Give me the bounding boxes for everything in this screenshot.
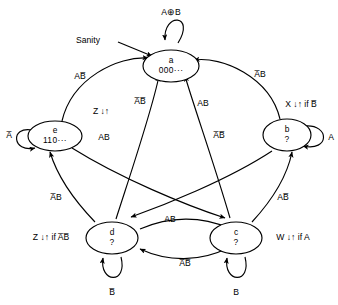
output-label-e: Z ↓↑ [93, 107, 109, 116]
state-code-a: 000··· [159, 66, 184, 76]
edge-label-d-to-e: A̅B [50, 193, 61, 202]
state-label-d: d ? [109, 228, 114, 247]
self-loop-d [103, 257, 122, 277]
edge-label-b-to-d: A̅B̅ [213, 131, 224, 140]
state-code-e: 110··· [43, 136, 67, 146]
state-code-c: ? [233, 238, 238, 248]
edge-label-d-to-a: A̅B̅ [134, 97, 145, 106]
edge-b-to-a [194, 60, 280, 119]
state-label-b: b ? [284, 125, 289, 144]
state-transition-diagram: a 000··· e 110··· b ? d ? c ? A⊕B A̅ A B… [0, 0, 338, 305]
entry-label-sanity: Sanity [76, 36, 100, 45]
diagram-canvas [0, 0, 338, 305]
self-loop-label-a: A⊕B [161, 8, 180, 17]
edge-label-c-to-a: AB [197, 99, 208, 108]
state-label-e: e 110··· [43, 126, 67, 145]
edge-b-to-d [131, 151, 272, 217]
edge-c-to-d [140, 248, 228, 259]
edge-label-e-to-a: AB̅ [74, 72, 85, 81]
self-loop-a [165, 20, 183, 43]
state-code-b: ? [284, 135, 289, 145]
edge-e-to-c [72, 148, 225, 218]
output-label-d: Z ↓↑ if A̅B̅ [33, 233, 69, 242]
edge-c-to-b [252, 152, 292, 222]
output-label-b: X ↓↑ if B̅ [285, 100, 317, 109]
self-loop-label-c: B [233, 288, 239, 297]
state-label-a: a 000··· [159, 56, 184, 75]
output-label-c: W ↓↑ if A [276, 233, 309, 242]
entry-arrow-sanity [118, 42, 152, 56]
edge-label-c-to-d: A̅B̅ [179, 259, 190, 268]
edge-c-to-a [185, 76, 230, 218]
state-label-c: c ? [233, 228, 238, 247]
self-loop-label-d: B̅ [109, 288, 115, 297]
edge-label-d-to-c: AB [164, 215, 175, 224]
self-loop-label-e: A̅ [6, 131, 12, 140]
edge-label-e-to-c: AB [98, 133, 109, 142]
edge-d-to-c [140, 219, 228, 229]
edge-label-c-to-b: AB̅ [277, 193, 288, 202]
self-loop-label-b: A [328, 133, 334, 142]
edge-label-b-to-a: A̅B [254, 70, 265, 79]
edge-d-to-e [50, 152, 95, 222]
state-code-d: ? [109, 238, 114, 248]
self-loop-c [227, 257, 246, 277]
